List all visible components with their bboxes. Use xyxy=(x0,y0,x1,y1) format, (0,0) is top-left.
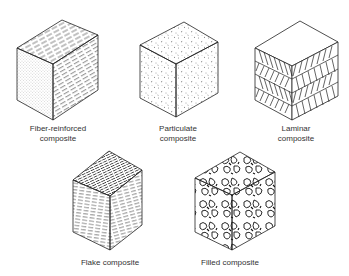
label-line1: Flake composite xyxy=(52,258,168,268)
label-line1: Laminar xyxy=(238,124,349,134)
filled-cube xyxy=(195,152,275,250)
flake-cube xyxy=(73,151,142,250)
label-fiber-reinforced: Fiber-reinforced composite xyxy=(0,124,116,144)
label-line1: Filled composite xyxy=(172,258,288,268)
particulate-cube xyxy=(140,22,218,117)
fiber-reinforced-cube xyxy=(17,20,98,120)
label-line1: Particulate xyxy=(120,124,236,134)
laminar-cube xyxy=(255,21,338,120)
label-flake: Flake composite xyxy=(52,258,168,268)
label-line2: composite xyxy=(0,134,116,144)
label-line1: Fiber-reinforced xyxy=(0,124,116,134)
label-particulate: Particulate composite xyxy=(120,124,236,144)
label-line2: composite xyxy=(238,134,349,144)
label-line2: composite xyxy=(120,134,236,144)
label-filled: Filled composite xyxy=(172,258,288,268)
label-laminar: Laminar composite xyxy=(238,124,349,144)
